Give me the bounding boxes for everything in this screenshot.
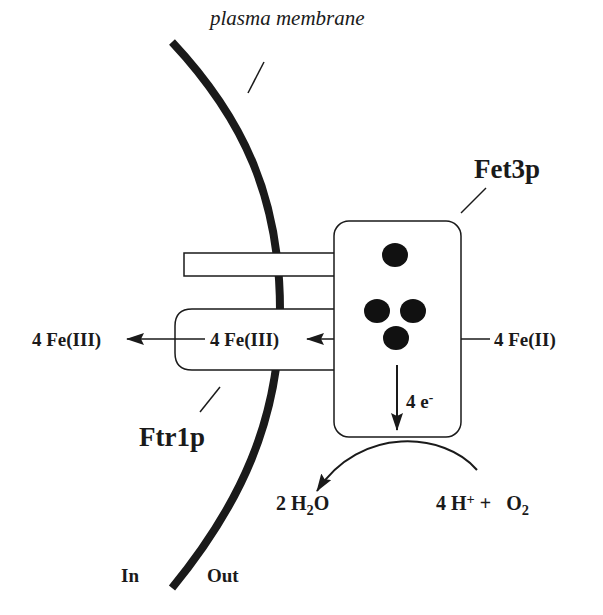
copper-site-icon	[382, 243, 408, 267]
protons-charge: +	[467, 491, 475, 507]
electrons-charge: -	[429, 390, 434, 405]
water-label: 2 H2O	[276, 493, 329, 513]
ftr1p-leader	[200, 387, 220, 412]
oxygen-subscript: 2	[522, 502, 529, 518]
iron-uptake-diagram: plasma membrane Fet3p Ftr1p 4 Fe(III) 4 …	[0, 0, 603, 615]
fet3p-membrane-anchor	[184, 253, 336, 276]
water-subscript: 2	[307, 502, 314, 518]
electrons-label: 4 e-	[406, 392, 433, 411]
in-label: In	[121, 566, 139, 585]
oxygen-reduction-arrow	[317, 441, 477, 491]
plasma-membrane-leader	[248, 62, 264, 93]
water-prefix: 2 H	[276, 492, 307, 514]
ftr1p-label: Ftr1p	[139, 424, 205, 451]
fe3-inside-label: 4 Fe(III)	[32, 330, 101, 349]
protons-text: 4 H	[436, 492, 467, 514]
plasma-membrane-label: plasma membrane	[210, 8, 365, 29]
copper-site-icon	[400, 299, 426, 323]
plus-oxygen-text: + O	[475, 492, 522, 514]
fe2-outside-label: 4 Fe(II)	[494, 330, 556, 349]
copper-site-icon	[364, 299, 390, 323]
electrons-base: 4 e	[406, 391, 429, 412]
copper-site-icon	[383, 326, 409, 350]
fet3p-leader	[461, 188, 486, 213]
diagram-canvas	[0, 0, 603, 615]
fet3p-label: Fet3p	[474, 156, 540, 183]
protons-oxygen-label: 4 H+ + O2	[436, 493, 529, 513]
out-label: Out	[207, 566, 239, 585]
water-suffix: O	[314, 492, 330, 514]
fe3-channel-label: 4 Fe(III)	[210, 330, 279, 349]
